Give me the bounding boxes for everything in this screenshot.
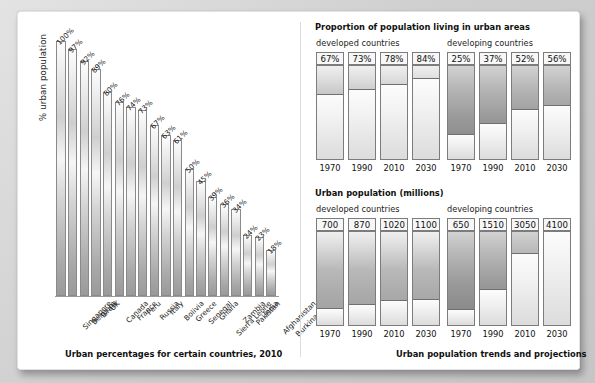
proportion-column	[543, 65, 571, 160]
population-column	[543, 231, 571, 326]
proportion-column	[479, 65, 507, 160]
bar	[243, 235, 252, 296]
proportion-column-fill	[381, 84, 407, 159]
left-chart-plot-area: 100%97%92%89%80%76%74%73%67%63%61%50%45%…	[55, 41, 277, 296]
proportion-year-label: 1970	[316, 163, 344, 173]
population-column	[511, 231, 539, 326]
population-column-fill	[413, 299, 439, 325]
bar	[150, 125, 159, 296]
right-chart-caption: Urban population trends and projections	[396, 349, 587, 359]
proportion-year-label: 1990	[348, 163, 376, 173]
proportion-column	[348, 65, 376, 160]
proportion-value-box: 67%	[316, 52, 344, 65]
left-chart-caption: Urban percentages for certain countries,…	[65, 349, 282, 359]
population-column-fill	[349, 304, 375, 325]
population-year-label: 1990	[479, 329, 507, 339]
population-section-title: Urban population (millions)	[315, 188, 444, 198]
population-value-box: 1020	[380, 218, 408, 231]
proportion-column-fill	[448, 134, 474, 159]
population-value-box: 700	[316, 218, 344, 231]
bar	[56, 41, 65, 296]
proportion-year-label: 2030	[412, 163, 440, 173]
bar	[80, 61, 89, 296]
population-column	[380, 231, 408, 326]
population-year-label: 1970	[447, 329, 475, 339]
population-column-fill	[512, 253, 538, 325]
proportion-column-fill	[480, 123, 506, 159]
proportion-column	[447, 65, 475, 160]
population-column-fill	[480, 289, 506, 325]
right-charts-container: Proportion of population living in urban…	[311, 11, 578, 368]
population-value-box: 4100	[543, 218, 571, 231]
bar	[208, 197, 217, 296]
proportion-developed-label: developed countries	[316, 38, 399, 48]
population-year-label: 1970	[316, 329, 344, 339]
population-column	[348, 231, 376, 326]
proportion-column-fill	[413, 78, 439, 159]
population-year-label: 2030	[412, 329, 440, 339]
population-column-fill	[381, 300, 407, 325]
population-value-box: 3050	[511, 218, 539, 231]
population-column	[447, 231, 475, 326]
proportion-column-fill	[317, 94, 343, 159]
y-axis-label: % urban population	[38, 0, 48, 121]
population-year-label: 1990	[348, 329, 376, 339]
population-column	[316, 231, 344, 326]
bar	[115, 102, 124, 296]
bar	[138, 110, 147, 296]
population-developing-label: developing countries	[447, 204, 533, 214]
proportion-year-label: 2030	[543, 163, 571, 173]
proportion-column	[511, 65, 539, 160]
proportion-column	[380, 65, 408, 160]
proportion-year-label: 2010	[380, 163, 408, 173]
population-column	[412, 231, 440, 326]
population-value-box: 1100	[412, 218, 440, 231]
proportion-value-box: 37%	[479, 52, 507, 65]
bar	[185, 169, 194, 297]
proportion-section-title: Proportion of population living in urban…	[315, 22, 530, 32]
bar	[91, 69, 100, 296]
bar	[173, 140, 182, 296]
population-developed-label: developed countries	[316, 204, 399, 214]
population-year-label: 2030	[543, 329, 571, 339]
population-value-box: 650	[447, 218, 475, 231]
proportion-value-box: 56%	[543, 52, 571, 65]
population-year-label: 2010	[380, 329, 408, 339]
proportion-column-fill	[544, 105, 570, 159]
proportion-year-label: 1990	[479, 163, 507, 173]
proportion-value-box: 73%	[348, 52, 376, 65]
bar	[103, 92, 112, 296]
population-value-box: 1510	[479, 218, 507, 231]
proportion-year-label: 1970	[447, 163, 475, 173]
bar	[220, 204, 229, 296]
population-column-fill	[317, 308, 343, 325]
proportion-value-box: 84%	[412, 52, 440, 65]
population-year-label: 2010	[511, 329, 539, 339]
proportion-value-box: 78%	[380, 52, 408, 65]
population-column-fill	[544, 231, 570, 325]
bar	[126, 107, 135, 296]
bar	[68, 49, 77, 296]
bar	[161, 135, 170, 296]
proportion-year-label: 2010	[511, 163, 539, 173]
bar	[196, 181, 205, 296]
bar-value-label: 80%	[102, 80, 120, 98]
proportion-value-box: 52%	[511, 52, 539, 65]
proportion-developing-label: developing countries	[447, 38, 533, 48]
proportion-column	[412, 65, 440, 160]
proportion-value-box: 25%	[447, 52, 475, 65]
population-column-fill	[448, 309, 474, 325]
proportion-column-fill	[512, 109, 538, 159]
bar	[266, 250, 275, 296]
population-column	[479, 231, 507, 326]
population-value-box: 870	[348, 218, 376, 231]
panel-divider	[300, 22, 301, 357]
bar-value-label: 50%	[183, 157, 201, 175]
left-bar-chart: % urban population 100%97%92%89%80%76%74…	[17, 11, 298, 368]
bar-value-label: 97%	[67, 37, 85, 55]
proportion-column-fill	[349, 89, 375, 159]
left-chart-baseline	[55, 296, 279, 297]
bar	[255, 237, 264, 296]
proportion-column	[316, 65, 344, 160]
screenshot-root: % urban population 100%97%92%89%80%76%74…	[0, 0, 595, 383]
